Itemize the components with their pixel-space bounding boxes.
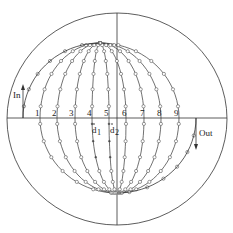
marker	[124, 188, 127, 191]
marker	[130, 180, 133, 183]
marker	[43, 88, 46, 91]
marker	[75, 88, 78, 91]
marker	[117, 44, 120, 47]
marker	[39, 105, 42, 108]
marker	[74, 105, 77, 108]
marker	[113, 188, 116, 191]
marker	[108, 188, 111, 191]
marker	[138, 156, 141, 159]
in-arrow-icon	[21, 84, 25, 118]
marker	[58, 140, 61, 143]
marker	[148, 180, 151, 183]
marker	[103, 50, 106, 53]
marker	[95, 50, 98, 53]
marker	[159, 169, 162, 172]
marker	[124, 140, 127, 143]
stereographic-net: 123456789 In Out d 1 d 2	[0, 0, 233, 233]
marker	[159, 122, 162, 125]
marker	[120, 180, 123, 183]
in-label: In	[13, 90, 21, 100]
marker	[134, 50, 137, 53]
svg-text:1: 1	[97, 128, 101, 137]
marker	[122, 88, 125, 91]
marker	[95, 156, 97, 158]
marker	[82, 59, 85, 62]
marker	[147, 169, 150, 172]
marker	[134, 72, 137, 75]
marker	[118, 188, 121, 191]
marker	[56, 122, 59, 125]
marker	[76, 140, 79, 143]
marker	[126, 50, 129, 53]
out-label: Out	[199, 128, 213, 138]
marker	[107, 88, 110, 91]
marker	[118, 50, 121, 53]
marker	[110, 50, 113, 53]
d1-label: d 1	[92, 123, 101, 137]
tick-labels: 123456789	[35, 108, 179, 118]
marker	[124, 122, 127, 125]
marker	[102, 180, 105, 183]
marker	[87, 50, 90, 53]
tick-label-9: 9	[174, 108, 179, 118]
tick-label-3: 3	[69, 108, 74, 118]
out-trajectory	[117, 118, 196, 193]
marker	[119, 72, 122, 75]
marker	[39, 122, 42, 125]
marker	[91, 88, 94, 91]
marker	[177, 122, 180, 125]
marker	[155, 88, 158, 91]
marker	[50, 156, 53, 159]
marker	[138, 59, 141, 62]
marker	[109, 44, 112, 47]
tick-label-6: 6	[122, 108, 127, 118]
marker	[157, 140, 160, 143]
marker	[104, 59, 107, 62]
svg-text:2: 2	[115, 128, 119, 137]
marker	[115, 59, 118, 62]
marker	[135, 169, 138, 172]
marker	[74, 122, 77, 125]
tick-label-5: 5	[104, 108, 109, 118]
marker	[86, 169, 89, 172]
marker	[59, 59, 62, 62]
marker	[84, 180, 87, 183]
marker	[92, 140, 94, 142]
marker	[105, 44, 108, 47]
tick-label-4: 4	[87, 108, 92, 118]
marker	[71, 59, 74, 62]
marker	[64, 156, 67, 159]
marker	[97, 188, 100, 191]
marker	[141, 140, 144, 143]
marker	[148, 72, 151, 75]
marker	[94, 180, 97, 183]
marker	[110, 169, 113, 172]
marker	[102, 188, 105, 191]
marker	[92, 188, 95, 191]
marker	[79, 50, 82, 53]
tick-label-7: 7	[140, 108, 145, 118]
marker	[80, 156, 83, 159]
marker	[106, 72, 109, 75]
marker	[61, 169, 64, 172]
marker	[113, 44, 116, 47]
marker	[150, 59, 153, 62]
diagram-canvas: 123456789 In Out d 1 d 2	[0, 0, 233, 233]
marker	[109, 156, 111, 158]
marker	[78, 72, 81, 75]
marker	[111, 180, 114, 183]
marker	[75, 180, 78, 183]
marker	[153, 156, 156, 159]
marker	[174, 140, 177, 143]
marker	[162, 72, 165, 75]
marker	[98, 169, 101, 172]
marker	[64, 72, 67, 75]
marker	[71, 50, 74, 53]
marker	[73, 169, 76, 172]
marker	[59, 88, 62, 91]
marker	[168, 156, 171, 159]
marker	[42, 140, 45, 143]
marker	[123, 156, 126, 159]
marker	[50, 72, 53, 75]
marker	[93, 44, 96, 47]
